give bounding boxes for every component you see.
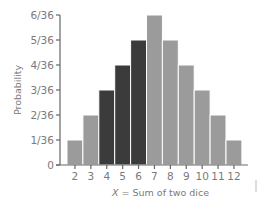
bar-10 bbox=[194, 90, 210, 165]
x-tick-label: 12 bbox=[227, 170, 240, 182]
y-tick-label: 3/36 bbox=[30, 84, 54, 96]
x-tick-label: 5 bbox=[119, 170, 126, 182]
y-tick-label: 4/36 bbox=[30, 59, 54, 71]
x-tick-label: 10 bbox=[195, 170, 208, 182]
y-tick-label: 6/36 bbox=[30, 9, 54, 21]
bar-6 bbox=[131, 40, 147, 165]
y-axis: 01/362/363/364/365/366/36 bbox=[30, 9, 60, 171]
bar-9 bbox=[178, 65, 194, 165]
bar-4 bbox=[99, 90, 115, 165]
bar-7 bbox=[147, 15, 163, 165]
x-tick-label: 4 bbox=[103, 170, 110, 182]
x-tick-label: 3 bbox=[88, 170, 95, 182]
y-tick-label: 2/36 bbox=[30, 109, 54, 121]
bars-group bbox=[67, 15, 242, 165]
y-tick-label: 1/36 bbox=[30, 134, 54, 146]
x-tick-label: 11 bbox=[211, 170, 224, 182]
x-axis-title: X = Sum of two dice bbox=[111, 187, 209, 198]
bar-2 bbox=[67, 140, 83, 165]
bar-3 bbox=[83, 115, 99, 165]
x-tick-label: 8 bbox=[167, 170, 174, 182]
y-tick-label: 0 bbox=[47, 159, 54, 171]
bar-5 bbox=[115, 65, 131, 165]
x-axis: 23456789101112 bbox=[56, 165, 248, 182]
y-axis-title: Probability bbox=[12, 65, 23, 116]
bar-11 bbox=[210, 115, 226, 165]
x-axis-title-rest: = Sum of two dice bbox=[119, 187, 210, 198]
x-tick-label: 6 bbox=[135, 170, 142, 182]
x-tick-label: 9 bbox=[183, 170, 190, 182]
bar-8 bbox=[162, 40, 178, 165]
bar-12 bbox=[226, 140, 242, 165]
x-tick-label: 7 bbox=[151, 170, 158, 182]
x-tick-label: 2 bbox=[72, 170, 79, 182]
y-tick-label: 5/36 bbox=[30, 34, 54, 46]
probability-bar-chart: 01/362/363/364/365/366/36 23456789101112… bbox=[0, 0, 259, 201]
